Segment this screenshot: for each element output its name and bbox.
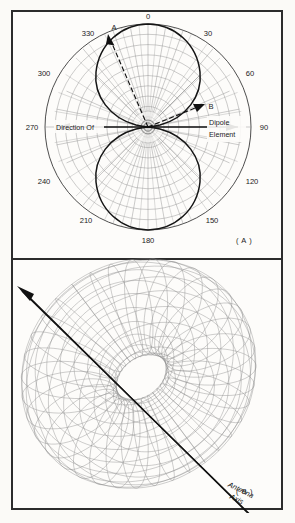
angle-label-30: 30 bbox=[204, 29, 212, 38]
angle-label-330: 330 bbox=[82, 29, 95, 38]
panel-a-polar-plot: 0 30 60 90 120 150 180 210 240 270 300 3… bbox=[0, 10, 295, 258]
direction-of-callout: Direction Of bbox=[54, 120, 104, 133]
angle-label-240: 240 bbox=[38, 177, 51, 186]
dipole-element-callout: Dipole Element bbox=[207, 116, 246, 142]
antenna-axis-main bbox=[22, 291, 265, 513]
angle-label-210: 210 bbox=[80, 216, 93, 225]
dipole-label-line1: Dipole bbox=[209, 118, 229, 127]
direction-of-label: Direction Of bbox=[56, 123, 94, 132]
angle-label-0: 0 bbox=[146, 12, 150, 21]
angle-label-180: 180 bbox=[142, 236, 155, 245]
marker-a-label: A bbox=[111, 23, 117, 32]
angle-label-90: 90 bbox=[260, 123, 268, 132]
torus-svg: Antenna Axis bbox=[0, 258, 295, 513]
angle-label-150: 150 bbox=[206, 216, 219, 225]
polar-plot-svg: 0 30 60 90 120 150 180 210 240 270 300 3… bbox=[0, 10, 295, 258]
antenna-radiation-pattern-figure: 0 30 60 90 120 150 180 210 240 270 300 3… bbox=[0, 0, 295, 523]
angle-label-60: 60 bbox=[246, 69, 254, 78]
dipole-label-line2: Element bbox=[209, 130, 235, 139]
torus-wireframe bbox=[21, 259, 256, 489]
panel-a-label: ( A ) bbox=[236, 236, 252, 245]
panel-b-label: ( B ) bbox=[236, 487, 253, 496]
marker-a-arrowhead bbox=[106, 34, 115, 46]
angle-label-120: 120 bbox=[246, 177, 259, 186]
marker-b-label: B bbox=[208, 102, 213, 111]
panel-b-torus-plot: Antenna Axis bbox=[0, 258, 295, 513]
angle-label-300: 300 bbox=[38, 69, 51, 78]
angle-label-270: 270 bbox=[26, 123, 39, 132]
